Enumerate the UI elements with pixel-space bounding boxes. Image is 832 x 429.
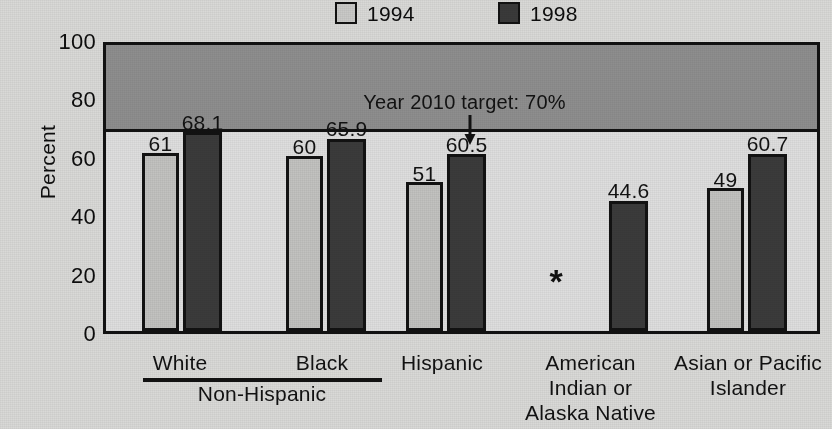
y-tick-label-40: 40 [30, 206, 96, 228]
legend-label-1998: 1998 [530, 3, 578, 24]
bar-hispanic-1994[interactable] [406, 182, 443, 331]
bar-value-black-1998: 65.9 [310, 118, 383, 139]
bar-value-asian-1998: 60.7 [731, 133, 804, 154]
plot-area: Year 2010 target: 70% 61 68.1 60 65.9 51… [103, 42, 820, 334]
y-tick-label-100: 100 [30, 31, 96, 53]
y-tick-label-60: 60 [30, 148, 96, 170]
x-label-american-indian: American Indian or Alaska Native [518, 350, 663, 425]
x-label-asian-pacific-line1: Asian or Pacific [664, 350, 832, 375]
bar-white-1998[interactable] [183, 132, 222, 331]
y-tick-label-0: 0 [30, 323, 96, 345]
x-label-asian-pacific: Asian or Pacific Islander [664, 350, 832, 400]
bar-white-1994[interactable] [142, 153, 179, 331]
legend-swatch-1994-icon [335, 2, 357, 24]
bar-value-hispanic-1998: 60.5 [430, 134, 503, 155]
bar-black-1998[interactable] [327, 139, 366, 331]
non-hispanic-group-label: Non-Hispanic [172, 383, 352, 405]
legend-label-1994: 1994 [367, 3, 415, 24]
x-label-asian-pacific-line2: Islander [664, 375, 832, 400]
bar-asian-1994[interactable] [707, 188, 744, 331]
x-label-american-indian-line3: Alaska Native [518, 400, 663, 425]
x-label-white: White [120, 350, 240, 375]
legend-item-1998: 1998 [498, 2, 578, 24]
chart-legend: 1994 1998 [0, 0, 832, 30]
y-tick-label-20: 20 [30, 265, 96, 287]
y-tick-label-80: 80 [30, 89, 96, 111]
x-label-american-indian-line2: Indian or [518, 375, 663, 400]
bar-black-1994[interactable] [286, 156, 323, 331]
bar-hispanic-1998[interactable] [447, 154, 486, 331]
x-label-american-indian-line1: American [518, 350, 663, 375]
legend-item-1994: 1994 [335, 2, 415, 24]
bar-asian-1998[interactable] [748, 154, 787, 331]
y-axis-tick-labels: 100 80 60 40 20 0 [20, 0, 96, 429]
legend-swatch-1998-icon [498, 2, 520, 24]
bar-value-white-1998: 68.1 [166, 112, 239, 133]
bar-amind-1998[interactable] [609, 201, 648, 331]
x-label-black: Black [262, 350, 382, 375]
missing-data-marker-amind-1994: * [536, 271, 576, 291]
bar-value-amind-1998: 44.6 [592, 180, 665, 201]
x-label-hispanic: Hispanic [382, 350, 502, 375]
